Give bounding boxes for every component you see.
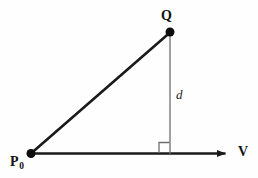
diagram-svg xyxy=(0,0,258,178)
hypotenuse-line xyxy=(32,33,171,154)
point-p0-dot xyxy=(27,149,36,158)
point-q-dot xyxy=(166,28,175,37)
point-q-label: Q xyxy=(161,9,172,23)
diagram-canvas: Q P0 V d xyxy=(0,0,258,178)
point-p0-label-subscript: 0 xyxy=(19,161,24,171)
distance-d-label: d xyxy=(176,88,183,101)
point-p0-label-base: P xyxy=(10,154,19,169)
right-angle-marker xyxy=(159,143,170,154)
vector-v-label: V xyxy=(238,145,248,159)
point-p0-label: P0 xyxy=(10,155,24,169)
